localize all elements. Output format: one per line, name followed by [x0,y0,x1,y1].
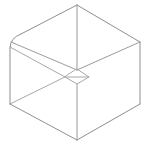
cube-interior-edges-group [11,5,140,140]
edge-upper-left-to-top [21,5,77,34]
edge-top-to-upper-right [77,5,140,42]
inner-offset-edge-lower-left [10,77,65,104]
inner-offset-edge-left [10,47,65,77]
edge-center-to-upper-right [77,42,140,70]
edge-lower-right-to-bottom [77,104,140,140]
isometric-cube-wireframe [0,0,152,148]
cube-outline-group [10,5,140,140]
edge-bottom-to-lower-left [10,104,77,140]
figure-canvas [0,0,152,148]
